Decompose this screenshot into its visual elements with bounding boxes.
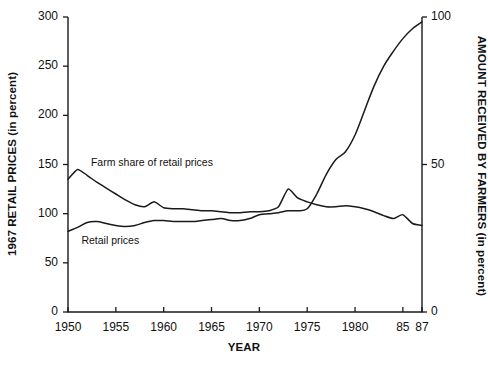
y-axis-left-tick-label: 150: [14, 157, 58, 171]
y-axis-right-tick-label: 50: [431, 157, 475, 171]
x-axis-tick-label: 87: [392, 320, 452, 334]
series-group: [68, 22, 422, 231]
series-annotation-0: Farm share of retail prices: [91, 156, 213, 168]
y-axis-left-tick-label: 300: [14, 9, 58, 23]
series-annotation-1: Retail prices: [81, 234, 139, 246]
y-axis-right-tick-label: 0: [431, 304, 475, 318]
y-axis-left-tick-label: 100: [14, 206, 58, 220]
series-line-0: [68, 169, 422, 225]
y-axis-right-tick-label: 100: [431, 9, 475, 23]
series-line-1: [68, 22, 422, 231]
y-axis-left-tick-label: 200: [14, 107, 58, 121]
chart-canvas: [0, 0, 488, 370]
y-axis-left-tick-label: 50: [14, 255, 58, 269]
y-axis-left-tick-label: 250: [14, 58, 58, 72]
chart-figure: 1967 RETAIL PRICES (in percent) AMOUNT R…: [0, 0, 488, 370]
y-axis-left-tick-label: 0: [14, 304, 58, 318]
